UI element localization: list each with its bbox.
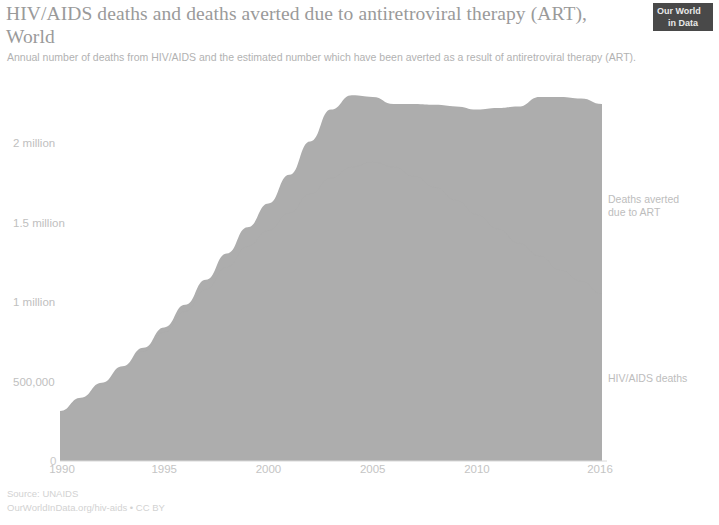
chart-container: HIV/AIDS deaths and deaths averted due t… — [0, 0, 719, 525]
source-text: Source: UNAIDS — [7, 487, 165, 501]
series-label-deaths-averted[interactable]: Deaths averted due to ART — [608, 193, 679, 218]
chart-footer: Source: UNAIDS OurWorldInData.org/hiv-ai… — [7, 487, 165, 514]
x-axis-tick-5: 2016 — [587, 463, 613, 475]
area-chart-svg — [0, 80, 719, 470]
plot-area — [0, 80, 719, 470]
y-axis-tick-3: 1.5 million — [13, 217, 65, 229]
logo-line-2: in Data — [657, 18, 709, 30]
x-axis-tick-3: 2005 — [360, 463, 386, 475]
attribution-link[interactable]: OurWorldInData.org/hiv-aids • CC BY — [7, 501, 165, 515]
series-label-hiv-aids-deaths[interactable]: HIV/AIDS deaths — [608, 372, 687, 385]
y-axis-tick-1: 500,000 — [13, 376, 55, 388]
our-world-in-data-logo[interactable]: Our World in Data — [653, 3, 713, 31]
x-axis-tick-4: 2010 — [464, 463, 490, 475]
x-axis-tick-0: 1990 — [49, 463, 75, 475]
y-axis-tick-4: 2 million — [13, 137, 55, 149]
x-axis-tick-1: 1995 — [151, 463, 177, 475]
series-layer — [60, 95, 602, 461]
chart-title: HIV/AIDS deaths and deaths averted due t… — [6, 2, 626, 48]
y-axis-tick-2: 1 million — [13, 296, 55, 308]
logo-line-1: Our World — [657, 6, 701, 16]
area-series-stacked[interactable] — [60, 95, 602, 461]
chart-subtitle: Annual number of deaths from HIV/AIDS an… — [7, 50, 687, 65]
x-axis-tick-2: 2000 — [256, 463, 282, 475]
